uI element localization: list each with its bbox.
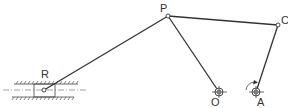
- mechanism-diagram: P C O A R: [0, 0, 288, 108]
- link-CA: [256, 25, 278, 92]
- label-C: C: [281, 14, 288, 26]
- link-RP: [44, 16, 168, 90]
- joint-P: [166, 14, 170, 18]
- label-A: A: [257, 96, 265, 108]
- joint-R: [42, 88, 46, 92]
- label-P: P: [160, 2, 167, 14]
- link-PC: [168, 16, 278, 25]
- label-O: O: [211, 96, 220, 108]
- label-R: R: [41, 68, 49, 80]
- link-PO: [168, 16, 219, 92]
- joint-C: [276, 23, 280, 27]
